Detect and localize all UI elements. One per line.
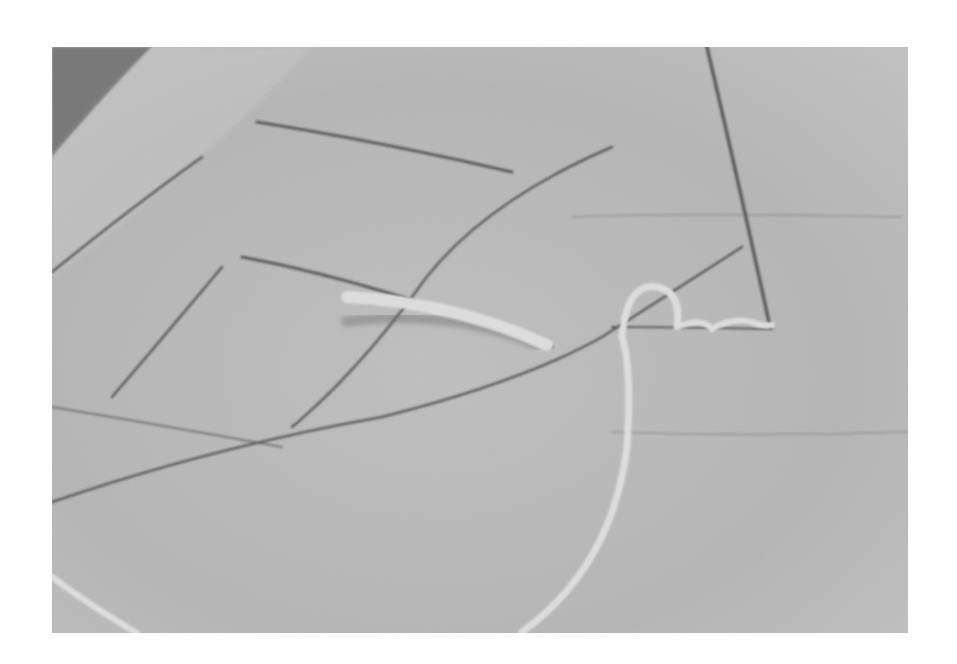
photo-canvas xyxy=(52,47,908,633)
photograph xyxy=(52,47,908,633)
